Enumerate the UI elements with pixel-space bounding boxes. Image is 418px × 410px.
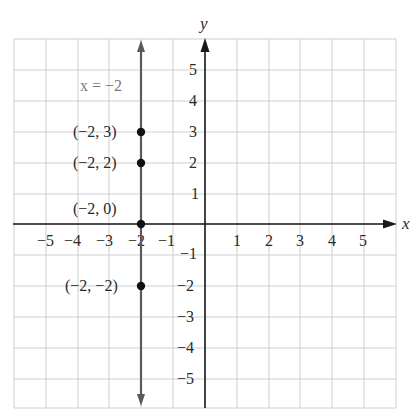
x-axis-label: x [401, 214, 410, 233]
y-tick-label: 1 [191, 185, 199, 202]
x-tick-label: −1 [158, 232, 175, 249]
x-tick-label: 3 [296, 232, 304, 249]
point-neg2-neg2 [137, 282, 145, 290]
point-label: (−2, 0) [73, 200, 117, 218]
coordinate-plane: x y −5 −4 −3 −2 −1 1 2 3 4 5 5 4 3 2 1 −… [0, 0, 418, 410]
x-tick-label: −2 [128, 232, 145, 249]
line-up-arrow-icon [137, 40, 145, 52]
y-axis-label: y [198, 14, 208, 33]
y-tick-label: −1 [180, 245, 197, 262]
point-label: (−2, 2) [73, 154, 117, 172]
x-tick-label: −5 [37, 232, 54, 249]
x-tick-label: 2 [265, 232, 273, 249]
y-tick-label: 4 [189, 92, 197, 109]
y-tick-label: −5 [177, 370, 194, 387]
y-tick-label: 3 [189, 123, 197, 140]
x-tick-label: 5 [359, 232, 367, 249]
point-label: (−2, 3) [73, 123, 117, 141]
y-tick-label: −4 [177, 339, 194, 356]
y-axis-arrow-icon [201, 38, 210, 52]
point-neg2-2 [137, 159, 145, 167]
y-tick-label: 2 [189, 154, 197, 171]
y-tick-label: −3 [177, 308, 194, 325]
x-tick-label: −3 [96, 232, 113, 249]
y-tick-label: −2 [177, 277, 194, 294]
x-axis-arrow-icon [383, 220, 397, 229]
point-label: (−2, −2) [65, 277, 118, 295]
x-tick-label: 4 [328, 232, 336, 249]
equation-label: x = −2 [80, 77, 122, 94]
x-tick-label: 1 [233, 232, 241, 249]
y-tick-label: 5 [189, 61, 197, 78]
x-tick-labels: −5 −4 −3 −2 −1 1 2 3 4 5 [37, 232, 367, 249]
point-neg2-3 [137, 128, 145, 136]
point-neg2-0 [137, 220, 145, 228]
x-tick-label: −4 [64, 232, 81, 249]
line-down-arrow-icon [137, 394, 145, 406]
